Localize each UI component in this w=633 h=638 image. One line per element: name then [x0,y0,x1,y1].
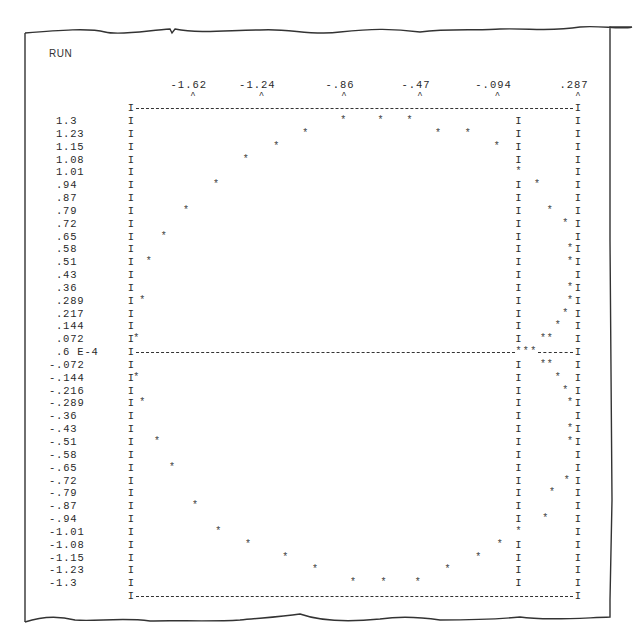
interior-axis-mark: I [514,449,522,461]
interior-axis-mark: I [514,577,522,589]
data-point-star: * [554,320,562,332]
interior-axis-mark: I [514,564,522,576]
interior-axis-mark: I [514,243,522,255]
right-axis-mark: I [574,564,582,576]
plot-top-border-left-corner: I [127,102,135,114]
data-point-star: * [464,128,472,140]
interior-axis-mark: I [514,269,522,281]
interior-axis-mark: I [514,231,522,243]
y-tick-label: -1.08 [49,539,85,551]
interior-axis-mark: I [514,372,522,384]
data-point-star: * [566,295,574,307]
zero-line [538,352,573,353]
y-tick-label: -1.15 [49,552,85,564]
data-point-star: * [281,552,289,564]
left-axis-mark: I [127,487,135,499]
right-axis-mark: I [574,141,582,153]
data-point-star: * [406,115,414,127]
data-point-star: * [138,295,146,307]
y-tick-label: 1.08 [56,154,84,166]
interior-axis-mark: I [514,500,522,512]
y-tick-label: .79 [56,205,77,217]
right-axis-mark: I [574,372,582,384]
right-axis-mark: I [574,513,582,525]
x-tick-caret: ^ [417,93,422,99]
data-point-star: * [541,513,549,525]
data-point-star: * [546,359,554,371]
interior-axis-mark: I [514,192,522,204]
y-tick-label: .36 [56,282,77,294]
left-axis-mark: I [127,359,135,371]
left-axis-mark: I [127,552,135,564]
y-tick-label: -.216 [49,385,85,397]
data-point-star: * [153,436,161,448]
data-point-star: * [272,141,280,153]
right-axis-mark: I [574,436,582,448]
left-axis-mark: I [127,205,135,217]
data-point-star: * [138,397,146,409]
y-tick-label: -.36 [49,410,77,422]
x-tick-caret: ^ [341,93,346,99]
y-tick-label: .144 [56,320,84,332]
right-axis-mark: I [574,179,582,191]
interior-axis-mark: I [514,410,522,422]
left-axis-mark: I [127,346,135,358]
data-point-star: * [546,333,554,345]
interior-axis-mark: I [514,552,522,564]
data-point-star: * [548,487,556,499]
right-axis-mark: I [574,295,582,307]
data-point-star: * [311,564,319,576]
right-axis-mark: I [574,192,582,204]
interior-axis-mark: I [514,513,522,525]
interior-axis-mark: I [514,128,522,140]
left-axis-mark: I [127,256,135,268]
right-axis-mark: I [574,500,582,512]
y-tick-label: .65 [56,231,77,243]
data-point-star: * [380,577,388,589]
data-point-star: * [244,539,252,551]
data-point-star: * [474,552,482,564]
y-tick-label: .289 [56,295,84,307]
right-axis-mark: I [574,282,582,294]
left-axis-mark: I [127,423,135,435]
x-tick-label: -.86 [325,79,354,91]
data-point-star: * [132,333,140,345]
y-tick-label: -1.3 [49,577,77,589]
left-axis-mark: I [127,564,135,576]
data-point-star: * [377,115,385,127]
data-point-star: * [214,526,222,538]
right-axis-mark: I [574,218,582,230]
interior-axis-mark: I [514,179,522,191]
interior-axis-mark: I [514,385,522,397]
y-tick-label: .58 [56,243,77,255]
left-axis-mark: I [127,128,135,140]
left-axis-mark: I [127,397,135,409]
x-tick-label: -1.24 [239,79,276,91]
data-point-star: * [212,179,220,191]
data-point-star: * [132,372,140,384]
right-axis-mark: I [574,385,582,397]
data-point-star: * [514,526,522,538]
right-axis-mark: I [574,308,582,320]
data-point-star: * [546,205,554,217]
left-axis-mark: I [127,320,135,332]
x-tick-label: -.47 [401,79,430,91]
y-tick-label: -1.01 [49,526,85,538]
left-axis-mark: I [127,462,135,474]
y-tick-label: -.072 [49,359,85,371]
interior-axis-mark: I [514,436,522,448]
data-point-star: * [301,128,309,140]
x-tick-label: -1.62 [171,79,208,91]
interior-axis-mark: I [514,487,522,499]
right-axis-mark: I [574,269,582,281]
right-axis-mark: I [574,256,582,268]
y-tick-label: -.72 [49,475,77,487]
torn-paper-border [0,0,633,638]
interior-axis-mark: I [514,282,522,294]
left-axis-mark: I [127,218,135,230]
y-tick-label: -.289 [49,397,85,409]
left-axis-mark: I [127,539,135,551]
right-axis-mark: I [574,231,582,243]
right-axis-mark: I [574,487,582,499]
y-tick-label: 1.01 [56,166,84,178]
